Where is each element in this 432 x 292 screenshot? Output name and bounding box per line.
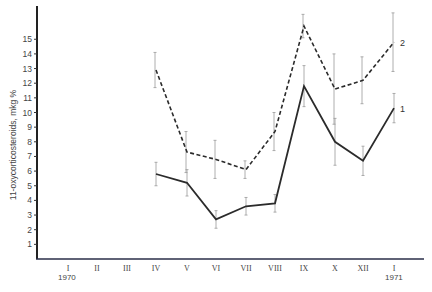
x-tick-label: I: [67, 264, 70, 273]
y-tick-label: 14: [23, 49, 33, 59]
year-label-1970: 1970: [58, 273, 76, 282]
x-tick-label: X: [332, 264, 338, 273]
year-label-1971: 1971: [385, 273, 403, 282]
y-tick-label: 3: [27, 210, 32, 220]
y-tick-label: 5: [27, 181, 32, 191]
y-tick-label: 2: [27, 225, 32, 235]
series-2-line: [156, 26, 394, 170]
x-tick-label: VIII: [268, 264, 282, 273]
y-tick-label: 15: [23, 34, 33, 44]
series-label-1: 1: [400, 104, 405, 114]
y-tick-label: 8: [27, 137, 32, 147]
y-tick-label: 6: [27, 166, 32, 176]
line-chart: 123456789101112131415 IIIIIIIVVVIVIIVIII…: [0, 0, 432, 292]
x-tick-label: I: [393, 264, 396, 273]
y-tick-label: 1: [27, 239, 32, 249]
y-tick-label: 7: [27, 151, 32, 161]
x-tick-label: II: [94, 264, 100, 273]
x-tick-label: V: [184, 264, 190, 273]
data-lines: [156, 26, 394, 219]
axes: [36, 6, 424, 259]
y-tick-label: 9: [27, 122, 32, 132]
y-axis-label: 11-oxycorticosteroids, mkg %: [8, 70, 18, 220]
x-axis-ticks: IIIIIIIVVVIVIIVIIIIXXXIII: [67, 264, 396, 273]
x-tick-label: IV: [152, 264, 161, 273]
x-tick-label: XII: [357, 264, 368, 273]
y-tick-label: 12: [23, 78, 33, 88]
y-tick-label: 11: [23, 93, 32, 103]
x-tick-label: VII: [240, 264, 251, 273]
y-axis-ticks: 123456789101112131415: [23, 34, 37, 249]
x-tick-label: IX: [300, 264, 309, 273]
x-tick-label: VI: [212, 264, 221, 273]
series-label-2: 2: [400, 38, 405, 48]
y-tick-label: 13: [23, 64, 33, 74]
error-bars: [154, 13, 396, 228]
x-tick-label: III: [123, 264, 131, 273]
y-tick-label: 10: [23, 108, 33, 118]
y-tick-label: 4: [27, 195, 32, 205]
